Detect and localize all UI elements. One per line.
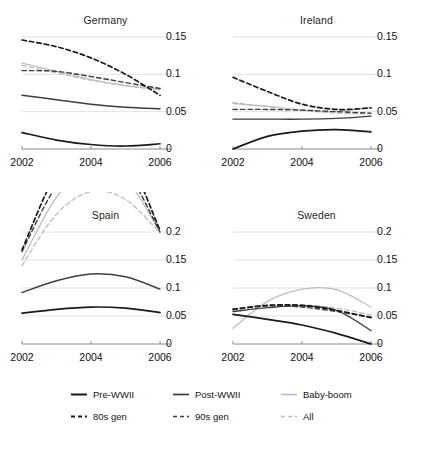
y-axis-labels: 00.050.10.15 <box>373 36 421 148</box>
series-line-all <box>22 65 160 90</box>
y-tick-label: 0.05 <box>377 105 397 116</box>
x-tick-label: 2006 <box>359 352 382 363</box>
legend-label: 90s gen <box>195 412 229 422</box>
y-axis-labels: 00.050.10.150.2 <box>373 231 421 343</box>
legend-row-dashed: 80s gen90s genAll <box>0 412 422 432</box>
legend-label: 80s gen <box>93 412 127 422</box>
chart-legend: Pre-WWIIPost-WWIIBaby-boom 80s gen90s ge… <box>0 390 422 434</box>
series-line-post-wwii <box>233 116 371 119</box>
plot-area-ireland <box>233 36 371 148</box>
x-tick-label: 2004 <box>79 157 102 168</box>
legend-key-icon <box>70 390 88 399</box>
y-tick-label: 0.05 <box>166 310 186 321</box>
figure-panel-grid: Germany00.050.10.15200220042006 Ireland0… <box>0 0 422 449</box>
series-line-pre-wwii <box>22 133 160 146</box>
x-tick-label: 2004 <box>290 157 313 168</box>
plot-area-germany <box>22 36 160 148</box>
x-tick-label: 2004 <box>79 352 102 363</box>
legend-label: All <box>303 412 314 422</box>
legend-key-icon <box>70 412 88 421</box>
panel-title-spain: Spain <box>0 209 211 221</box>
x-tick-label: 2006 <box>148 157 171 168</box>
panel-germany: Germany00.050.10.15200220042006 <box>0 0 211 190</box>
legend-key-icon <box>172 412 190 421</box>
legend-item-baby-boom[interactable]: Baby-boom <box>280 390 352 400</box>
y-tick-label: 0.15 <box>377 254 397 265</box>
y-tick-label: 0 <box>377 338 383 349</box>
series-line-all <box>22 191 160 266</box>
series-line-post-wwii <box>22 95 160 108</box>
x-tick-label: 2002 <box>221 157 244 168</box>
legend-item-post-wwii[interactable]: Post-WWII <box>172 390 240 400</box>
series-line-post-wwii <box>233 306 371 331</box>
legend-row-solid: Pre-WWIIPost-WWIIBaby-boom <box>0 390 422 410</box>
legend-key-icon <box>172 390 190 399</box>
series-line-pre-wwii <box>22 307 160 313</box>
legend-item-pre-wwii[interactable]: Pre-WWII <box>70 390 134 400</box>
panel-title-sweden: Sweden <box>211 209 422 221</box>
series-line-baby-boom <box>233 288 371 329</box>
legend-item-90s-gen[interactable]: 90s gen <box>172 412 229 422</box>
series-line-post-wwii <box>22 274 160 293</box>
legend-label: Baby-boom <box>303 390 352 400</box>
plot-area-sweden <box>233 231 371 343</box>
panel-sweden: Sweden00.050.10.150.2200220042006 <box>211 195 422 385</box>
y-tick-label: 0 <box>166 143 172 154</box>
legend-key-icon <box>280 412 298 421</box>
y-tick-label: 0.1 <box>166 282 181 293</box>
y-tick-label: 0.2 <box>377 226 392 237</box>
x-tick-label: 2002 <box>10 352 33 363</box>
plot-area-spain <box>22 231 160 343</box>
y-tick-label: 0.05 <box>377 310 397 321</box>
x-tick-label: 2002 <box>221 352 244 363</box>
series-line-pre-wwii <box>233 314 371 344</box>
legend-label: Pre-WWII <box>93 390 134 400</box>
legend-item-all[interactable]: All <box>280 412 314 422</box>
y-tick-label: 0.15 <box>377 31 397 42</box>
panel-title-ireland: Ireland <box>211 14 422 26</box>
y-tick-label: 0.05 <box>166 105 186 116</box>
x-tick-label: 2006 <box>148 352 171 363</box>
x-tick-label: 2004 <box>290 352 313 363</box>
x-tick-label: 2002 <box>10 157 33 168</box>
y-tick-label: 0.15 <box>166 254 186 265</box>
y-axis-labels: 00.050.10.150.2 <box>162 231 210 343</box>
legend-key-icon <box>280 390 298 399</box>
panel-ireland: Ireland00.050.10.15200220042006 <box>211 0 422 190</box>
y-tick-label: 0 <box>377 143 383 154</box>
y-tick-label: 0.1 <box>377 282 392 293</box>
x-tick-label: 2006 <box>359 157 382 168</box>
panel-spain: Spain00.050.10.150.2200220042006 <box>0 195 211 385</box>
y-tick-label: 0.2 <box>166 226 181 237</box>
panel-title-germany: Germany <box>0 14 211 26</box>
legend-label: Post-WWII <box>195 390 240 400</box>
y-tick-label: 0.15 <box>166 31 186 42</box>
y-tick-label: 0.1 <box>377 68 392 79</box>
legend-item-80s-gen[interactable]: 80s gen <box>70 412 127 422</box>
y-tick-label: 0.1 <box>166 68 181 79</box>
y-axis-labels: 00.050.10.15 <box>162 36 210 148</box>
y-tick-label: 0 <box>166 338 172 349</box>
